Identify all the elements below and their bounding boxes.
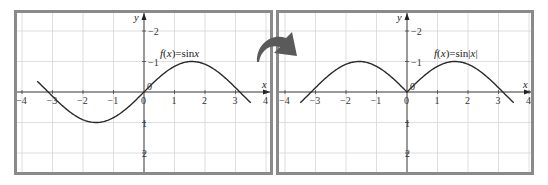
y-tick-label: −2 [411, 26, 422, 37]
y-tick-label: −1 [411, 57, 422, 68]
x-axis-arrow-icon [263, 90, 270, 95]
x-tick-label: 0 [141, 95, 146, 106]
x-tick-label: −2 [77, 95, 88, 106]
x-tick-label: −3 [47, 95, 58, 106]
y-axis-label: y [133, 12, 139, 23]
x-tick-label: −4 [279, 95, 290, 106]
origin-label: 0 [410, 81, 415, 92]
x-axis-arrow-icon [524, 90, 531, 95]
panel-sin-x: xy−4−3−2−100123421−1−2 f(x)=sinx [15, 11, 272, 174]
y-tick-label: 1 [142, 118, 147, 129]
y-tick-label: 2 [142, 148, 147, 159]
y-tick-label: −2 [148, 26, 159, 37]
x-tick-label: 1 [435, 95, 440, 106]
x-tick-label: 3 [496, 95, 501, 106]
y-axis-arrow-icon [142, 13, 147, 20]
y-tick-label: −1 [148, 57, 159, 68]
x-tick-label: −1 [108, 95, 119, 106]
x-tick-label: 2 [465, 95, 470, 106]
x-tick-label: 1 [172, 95, 177, 106]
y-axis-arrow-icon [405, 13, 410, 20]
panel-sin-abs-x: xy−4−3−2−100123421−1−2 f(x)=sin|x| [277, 11, 533, 174]
x-axis-label: x [261, 79, 267, 90]
y-tick-label: 2 [405, 148, 410, 159]
tick-labels-left: xy−4−3−2−100123421−1−2 [16, 12, 268, 159]
y-tick-label: 1 [405, 118, 410, 129]
x-tick-label: 4 [526, 95, 531, 106]
x-tick-label: −4 [16, 95, 27, 106]
function-label-right: f(x)=sin|x| [434, 47, 478, 60]
function-label-left: f(x)=sinx [160, 47, 199, 60]
x-tick-label: 4 [263, 95, 268, 106]
x-tick-label: −3 [310, 95, 321, 106]
y-axis-label: y [396, 12, 402, 23]
x-tick-label: −2 [340, 95, 351, 106]
x-tick-label: 2 [202, 95, 207, 106]
x-tick-label: 0 [404, 95, 409, 106]
chart-canvas: xy−4−3−2−100123421−1−2 f(x)=sinx xy−4−3−… [0, 0, 548, 185]
x-tick-label: −1 [371, 95, 382, 106]
x-axis-label: x [522, 79, 528, 90]
x-tick-label: 3 [233, 95, 238, 106]
origin-label: 0 [147, 81, 152, 92]
